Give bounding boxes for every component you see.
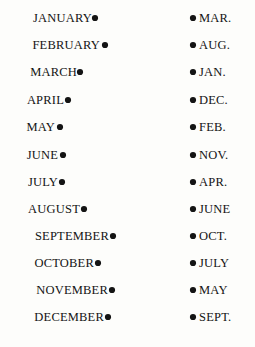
month-abbreviation-label[interactable]: JUNE [199, 203, 230, 216]
left-endpoint-dot[interactable] [65, 97, 71, 103]
month-name-label[interactable]: MAY [26, 121, 55, 134]
matching-puzzle: JANUARYFEBRUARYMARCHAPRILMAYJUNEJULYAUGU… [0, 0, 255, 347]
left-endpoint-dot[interactable] [110, 233, 116, 239]
month-abbreviation-label[interactable]: JAN. [199, 66, 226, 79]
right-endpoint-dot[interactable] [190, 42, 196, 48]
month-name-label[interactable]: JUNE [27, 149, 58, 162]
right-endpoint-dot[interactable] [190, 206, 196, 212]
month-abbreviation-label[interactable]: SEPT. [199, 311, 231, 324]
left-endpoint-dot[interactable] [92, 15, 98, 21]
month-name-label[interactable]: JULY [28, 176, 58, 189]
right-endpoint-dot[interactable] [190, 97, 196, 103]
month-name-label[interactable]: OCTOBER [34, 257, 94, 270]
month-name-label[interactable]: MARCH [30, 66, 77, 79]
month-abbreviation-label[interactable]: DEC. [199, 94, 228, 107]
right-endpoint-dot[interactable] [190, 124, 196, 130]
right-endpoint-dot[interactable] [190, 314, 196, 320]
left-endpoint-dot[interactable] [59, 179, 65, 185]
month-abbreviation-label[interactable]: MAY [199, 284, 228, 297]
month-abbreviation-label[interactable]: NOV. [199, 149, 228, 162]
left-endpoint-dot[interactable] [57, 124, 63, 130]
month-name-label[interactable]: NOVEMBER [36, 284, 108, 297]
month-name-label[interactable]: FEBRUARY [32, 39, 100, 52]
left-endpoint-dot[interactable] [105, 314, 111, 320]
month-name-label[interactable]: APRIL [27, 94, 64, 107]
right-endpoint-dot[interactable] [190, 152, 196, 158]
month-name-label[interactable]: AUGUST [28, 203, 80, 216]
month-abbreviation-label[interactable]: MAR. [199, 12, 231, 25]
right-endpoint-dot[interactable] [190, 233, 196, 239]
left-endpoint-dot[interactable] [60, 152, 66, 158]
left-endpoint-dot[interactable] [95, 260, 101, 266]
month-abbreviation-label[interactable]: OCT. [199, 230, 227, 243]
month-name-label[interactable]: DECEMBER [34, 311, 104, 324]
month-abbreviation-label[interactable]: APR. [199, 176, 227, 189]
month-name-label[interactable]: JANUARY [33, 12, 92, 25]
right-endpoint-dot[interactable] [190, 287, 196, 293]
right-endpoint-dot[interactable] [190, 260, 196, 266]
right-endpoint-dot[interactable] [190, 69, 196, 75]
left-endpoint-dot[interactable] [109, 287, 115, 293]
month-abbreviation-label[interactable]: FEB. [199, 121, 226, 134]
month-abbreviation-label[interactable]: JULY [199, 257, 229, 270]
left-endpoint-dot[interactable] [102, 42, 108, 48]
month-abbreviation-label[interactable]: AUG. [199, 39, 230, 52]
left-endpoint-dot[interactable] [77, 69, 83, 75]
right-endpoint-dot[interactable] [190, 179, 196, 185]
left-endpoint-dot[interactable] [81, 206, 87, 212]
month-name-label[interactable]: SEPTEMBER [35, 230, 109, 243]
right-endpoint-dot[interactable] [190, 15, 196, 21]
